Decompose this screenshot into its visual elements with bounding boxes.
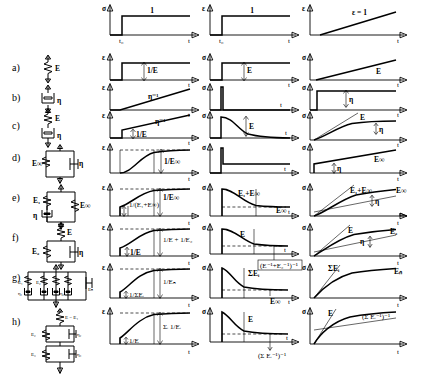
panel-f-rate: σ E η E₂ t bbox=[300, 222, 422, 266]
panel-h-creep: ε 1/E Σᵢ 1/Eᵢ t bbox=[100, 306, 205, 358]
model-diagram-f: E E₂ η bbox=[32, 222, 90, 270]
axis-label-sigma: σ bbox=[202, 183, 207, 192]
panel-a-relaxation-annotation: E bbox=[247, 66, 252, 75]
row-label-h: h) bbox=[12, 316, 20, 327]
model-element-label: E₂ bbox=[32, 247, 40, 256]
model-element-label: η₃ bbox=[77, 352, 82, 357]
panel-c-rate-annotation-2: η bbox=[379, 125, 383, 134]
axis-label-sigma: σ bbox=[202, 83, 207, 92]
panel-g-rate-annotation-2: Eₙ bbox=[394, 267, 402, 276]
model-element-label: E∞ bbox=[32, 159, 43, 168]
panel-c-creep-annotation-1: 1/E bbox=[136, 130, 147, 139]
axis-label-sigma: σ bbox=[302, 183, 307, 192]
model-element-label: η bbox=[33, 211, 37, 220]
panel-c-creep: ε 1/E η⁻¹ t bbox=[100, 110, 205, 146]
row-label-b: b) bbox=[12, 92, 20, 103]
panel-g-relaxation-annotation-2: E∞ bbox=[270, 297, 281, 306]
panel-f-creep-annotation-1: 1/E bbox=[130, 248, 141, 257]
axis-label-sigma: σ bbox=[202, 111, 207, 120]
axis-label-sigma: σ bbox=[302, 53, 307, 62]
panel-h-rate: σ E (Σ Eᵢ⁻¹)⁻¹ t bbox=[300, 306, 422, 358]
axis-label-t: t bbox=[284, 165, 286, 173]
panel-header-creep-input: σ 1 t₀ t bbox=[100, 2, 205, 46]
panel-e-rate: σ E₁+E∞ η E∞ t bbox=[300, 182, 422, 226]
model-element-label: E₂ bbox=[31, 332, 36, 337]
model-diagram-g: E₁ E₂ Eₙ η₁ η₂ bbox=[18, 264, 94, 308]
model-diagram-a: E bbox=[36, 54, 84, 84]
model-diagram-d: E∞ η bbox=[32, 144, 88, 184]
panel-e-creep: ε 1/(E₁+E∞) 1/E∞ t bbox=[100, 182, 205, 226]
axis-label-t: t bbox=[288, 298, 290, 306]
panel-d-rate: σ η E∞ t bbox=[300, 142, 422, 182]
axis-label-epsilon: ε bbox=[102, 53, 106, 62]
axis-label-t: t bbox=[397, 37, 399, 45]
axis-label-sigma: σ bbox=[302, 83, 307, 92]
panel-c-creep-annotation-2: η⁻¹ bbox=[155, 117, 166, 126]
axis-label-t: t bbox=[284, 246, 286, 254]
model-element-label: E bbox=[55, 64, 60, 73]
axis-label-sigma: σ bbox=[302, 223, 307, 232]
panel-e-relaxation: σ E₁+E∞ E∞ t bbox=[200, 182, 305, 226]
panel-g-relaxation-annotation-1: ΣEᵢ bbox=[248, 269, 260, 278]
panel-c-relaxation: σ E t bbox=[200, 110, 305, 146]
axis-label-epsilon: ε bbox=[102, 111, 106, 120]
model-element-label: η bbox=[57, 96, 61, 105]
model-diagram-h: E = E₁ E₂ η₂ E₃ η₃ bbox=[30, 308, 90, 374]
header-creep-curve-label: 1 bbox=[150, 6, 154, 15]
axis-label-epsilon: ε bbox=[102, 223, 106, 232]
axis-label-sigma: σ bbox=[202, 53, 207, 62]
panel-h-relaxation-annotation-1: E bbox=[248, 315, 253, 324]
model-element-label: η bbox=[57, 131, 61, 140]
panel-e-creep-annotation-1: 1/(E₁+E∞) bbox=[129, 201, 160, 209]
panel-e-rate-annotation-2: η bbox=[375, 197, 379, 206]
header-rate-curve-label: ε = 1 bbox=[352, 8, 367, 17]
axis-label-sigma: σ bbox=[202, 263, 207, 272]
axis-label-epsilon: ε bbox=[202, 4, 206, 13]
model-element-label: η₁ bbox=[18, 291, 23, 296]
panel-d-creep: ε 1/E∞ t bbox=[100, 142, 205, 182]
axis-label-epsilon: ε bbox=[102, 307, 106, 316]
axis-label-epsilon: ε bbox=[102, 183, 106, 192]
model-element-label: E = E₁ bbox=[65, 315, 78, 320]
figure-sheet: σ 1 t₀ t ε 1 t₀ t ε ε = 1 t a) E ε 1/E t… bbox=[0, 0, 428, 381]
axis-label-epsilon: ε bbox=[102, 263, 106, 272]
axis-label-sigma: σ bbox=[202, 307, 207, 316]
panel-h-creep-annotation-1: 1/E bbox=[129, 337, 139, 345]
model-element-label: E bbox=[67, 228, 72, 237]
panel-f-creep-annotation-2: 1/E + 1/E₂ bbox=[163, 236, 193, 244]
model-element-label: E∞ bbox=[80, 201, 91, 210]
row-label-d: d) bbox=[12, 152, 20, 163]
panel-h-relaxation: σ E (Σ Eᵢ⁻¹)⁻¹ t bbox=[200, 306, 305, 366]
row-label-e: e) bbox=[12, 192, 20, 203]
axis-tick-t0: t₀ bbox=[119, 37, 124, 45]
panel-d-creep-annotation: 1/E∞ bbox=[164, 157, 181, 166]
panel-a-rate-annotation: E bbox=[376, 67, 381, 76]
panel-e-creep-annotation-2: 1/E∞ bbox=[163, 193, 180, 202]
model-diagram-c: E η bbox=[36, 108, 84, 148]
panel-c-rate-annotation-1: E bbox=[360, 113, 365, 122]
model-element-label: E₁ bbox=[18, 280, 23, 285]
panel-f-rate-annotation-3: E₂ bbox=[390, 227, 398, 236]
row-label-a: a) bbox=[12, 62, 20, 73]
panel-f-rate-annotation-1: E bbox=[348, 226, 353, 235]
axis-label-sigma: σ bbox=[202, 223, 207, 232]
panel-g-rate-annotation-1: ΣEᵢ bbox=[328, 264, 340, 273]
panel-f-relaxation-annotation-1: E bbox=[240, 230, 245, 239]
panel-e-relaxation-annotation-1: E₁+E∞ bbox=[238, 189, 261, 198]
panel-h-creep-annotation-2: Σᵢ 1/Eᵢ bbox=[163, 323, 182, 331]
panel-g-rate: σ ΣEᵢ Eₙ t bbox=[300, 262, 422, 310]
axis-label-t: t bbox=[188, 348, 190, 356]
axis-label-epsilon: ε bbox=[102, 143, 106, 152]
model-element-label: Eₙ bbox=[88, 287, 93, 292]
panel-header-relaxation-input: ε 1 t₀ t bbox=[200, 2, 305, 46]
axis-label-t: t bbox=[397, 348, 399, 356]
model-element-label: E₂ bbox=[36, 280, 41, 285]
panel-d-relaxation: σ t bbox=[200, 142, 305, 182]
row-label-c: c) bbox=[12, 120, 20, 131]
panel-c-relaxation-annotation: E bbox=[249, 122, 254, 131]
panel-e-rate-annotation-3: E∞ bbox=[396, 186, 407, 195]
axis-label-sigma: σ bbox=[302, 263, 307, 272]
panel-g-relaxation: σ ΣEᵢ E∞ t bbox=[200, 262, 305, 310]
axis-label-sigma: σ bbox=[302, 111, 307, 120]
panel-header-rate-input: ε ε = 1 t bbox=[300, 2, 422, 46]
